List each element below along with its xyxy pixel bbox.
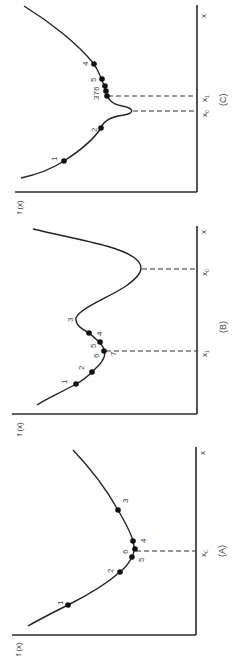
point-6 (132, 546, 138, 552)
point-4 (130, 538, 136, 544)
point-7 (103, 88, 109, 94)
panel-c: 4 5 376 2 1 x x1 x0 (C) f (x) (15, 5, 228, 214)
x0-label: x0 (199, 550, 209, 557)
point-4 (86, 330, 92, 336)
panel-b: 3 4 5 6 7 2 1 x x0 x1 (B) f (x) (12, 226, 228, 436)
panel-a: 3 4 6 5 2 1 x x0 (A) f (x) (12, 447, 227, 656)
point-2 (117, 569, 123, 575)
point-label-4: 4 (81, 61, 90, 66)
function-curve (28, 450, 134, 626)
x0-label: x0 (200, 269, 210, 276)
point-1 (65, 602, 71, 608)
point-label-5: 5 (89, 343, 98, 348)
panel-label-b: (B) (218, 321, 228, 333)
point-label-5: 5 (137, 557, 146, 562)
point-5 (97, 339, 103, 345)
point-3 (115, 507, 121, 513)
figure: 4 5 376 2 1 x x1 x0 (C) f (x) 3 4 5 6 7 … (0, 0, 232, 657)
point-3 (104, 93, 110, 99)
x-axis-label: x (198, 451, 207, 455)
point-label-1: 1 (60, 379, 69, 384)
point-label-2: 2 (77, 365, 86, 370)
y-axis-label: f (x) (14, 642, 23, 656)
point-label-376: 376 (92, 86, 101, 100)
point-label-4: 4 (139, 538, 148, 543)
x1-label: x1 (200, 95, 210, 102)
function-curve (33, 229, 141, 405)
y-axis-label: f (x) (15, 200, 24, 214)
point-label-1: 1 (56, 600, 65, 605)
point-6 (102, 83, 108, 89)
point-2 (98, 125, 104, 131)
point-label-2: 2 (106, 568, 115, 573)
point-5 (99, 76, 105, 82)
point-label-6: 6 (92, 353, 101, 358)
point-label-3: 3 (66, 317, 75, 322)
point-label-5: 5 (89, 77, 98, 82)
point-2 (89, 369, 95, 375)
point-4 (91, 61, 97, 67)
point-5 (129, 554, 135, 560)
function-curve (21, 6, 132, 178)
point-1 (61, 158, 67, 164)
point-label-1: 1 (50, 156, 59, 161)
x0-label: x0 (200, 110, 210, 117)
x-axis-label: x (199, 230, 208, 234)
point-label-7: 7 (109, 351, 118, 356)
point-label-4: 4 (95, 331, 104, 336)
point-label-3: 3 (121, 498, 130, 503)
x1-label: x1 (200, 350, 210, 357)
point-7 (101, 348, 107, 354)
point-1 (73, 381, 79, 387)
panel-label-a: (A) (217, 545, 227, 557)
x-axis-label: x (199, 14, 208, 18)
y-axis-label: f (x) (15, 422, 24, 436)
point-label-2: 2 (90, 127, 99, 132)
panel-label-c: (C) (218, 94, 228, 107)
point-label-6: 6 (121, 549, 130, 554)
